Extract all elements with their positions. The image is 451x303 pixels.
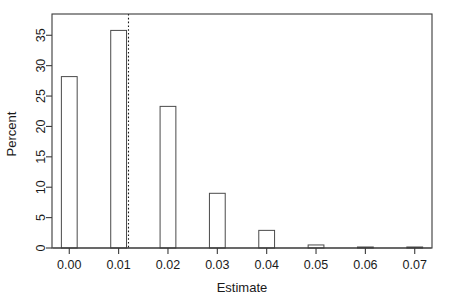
y-tick-label: 0: [34, 244, 48, 251]
chart-canvas: 0.000.010.020.030.040.050.060.07 0510152…: [0, 0, 451, 303]
x-tick-label: 0.07: [403, 258, 427, 272]
y-tick-label: 10: [34, 180, 48, 194]
histogram-bar: [209, 193, 225, 248]
x-tick-label: 0.03: [205, 258, 229, 272]
histogram-bar: [61, 77, 77, 248]
x-tick-label: 0.05: [304, 258, 328, 272]
x-tick-label: 0.01: [106, 258, 130, 272]
x-tick-label: 0.02: [156, 258, 180, 272]
y-tick-label: 35: [34, 28, 48, 42]
histogram-bar: [111, 30, 127, 248]
histogram-figure: 0.000.010.020.030.040.050.060.07 0510152…: [0, 0, 451, 303]
x-axis-title: Estimate: [217, 280, 268, 295]
y-tick-label: 5: [34, 214, 48, 221]
x-tick-label: 0.04: [255, 258, 279, 272]
y-tick-label: 25: [34, 89, 48, 103]
y-tick-label: 30: [34, 59, 48, 73]
y-tick-label: 20: [34, 119, 48, 133]
x-tick-label: 0.06: [353, 258, 377, 272]
x-tick-label: 0.00: [57, 258, 81, 272]
y-tick-label: 15: [34, 150, 48, 164]
histogram-bar: [160, 106, 176, 248]
y-axis-title: Percent: [4, 111, 19, 156]
histogram-bar: [259, 230, 275, 248]
